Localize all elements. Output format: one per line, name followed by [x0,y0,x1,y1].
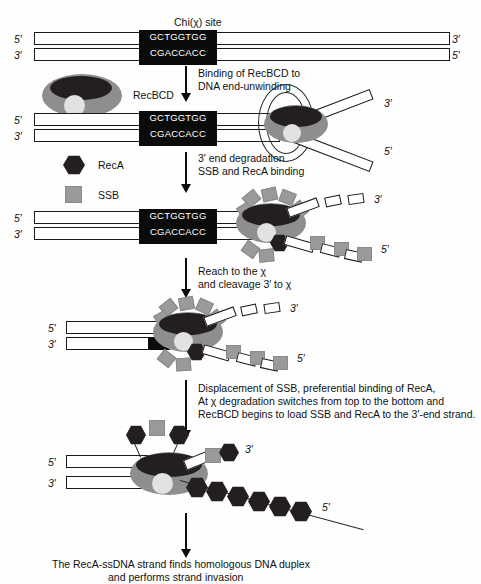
panel1-bottom-strand-right [214,48,450,61]
panel3-left-3prime: 3′ [14,228,22,241]
panel5-3prime-label: 3′ [245,443,253,456]
step-3-line-1: Reach to the χ [198,265,266,278]
panel4-5prime-ssb-3 [273,356,288,370]
panel4-top-strand [66,321,166,334]
panel3-bottom-strand-left [34,227,141,240]
panel1-top-strand-left [34,32,141,45]
panel3-degraded-fragment-2 [347,193,364,205]
panel4-left-5prime: 5′ [48,322,56,335]
step-4-line-2: At χ degradation switches from top to th… [198,395,444,408]
panel3-3prime-label: 3′ [374,193,382,206]
panel5-left-5prime: 5′ [48,456,56,469]
panel3-left-5prime: 5′ [14,212,22,225]
final-arrow-head [181,549,191,558]
panel2-3prime-label: 3′ [384,97,392,110]
panel2-left-5prime: 5′ [14,114,22,127]
panel1-right-3prime: 3′ [452,33,460,46]
panel3-degraded-fragment-1 [324,194,342,207]
panel3-chi-sequence-bottom: CGACCACC [139,225,217,244]
panel4-ssb-ring-6 [157,349,177,368]
panel4-3prime-label: 3′ [290,302,298,315]
panel3-5prime-ssb-3 [357,247,372,261]
reca-legend-label: RecA [98,159,124,172]
panel5-reca-filament-6 [290,501,312,522]
chi-site-title: Chi(χ) site [174,16,222,29]
panel5-3prime-reca [219,443,239,462]
panel4-ssb-ring-7 [176,357,192,371]
panel5-ssb-arch [149,420,165,436]
reca-legend-hexagon [63,155,85,175]
step-4-arrow-line [185,380,187,432]
panel1-bottom-strand-left [34,48,141,61]
final-arrow-line [185,513,187,551]
panel5-reca-filament-4 [248,491,270,512]
panel4-left-3prime: 3′ [48,338,56,351]
panel5-recbcd-light-dot [152,473,173,494]
panel2-5prime-label: 5′ [384,145,392,158]
step-2-arrow-head [181,184,191,193]
panel2-bottom-strand-left [34,129,141,142]
panel3-5prime-label: 5′ [381,243,389,256]
step-2-line-1: 3′ end degradation [198,152,285,165]
panel2-left-3prime: 3′ [14,130,22,143]
panel3-ssb-ring-7 [258,248,274,262]
conclusion-line-2: and performs strand invasion [108,571,243,584]
panel5-3prime-ssb [205,448,221,463]
step-1-arrow-line [185,66,187,95]
step-4-line-1: Displacement of SSB, preferential bindin… [198,382,436,395]
panel3-ssb-ring-2 [261,187,278,203]
step-3-line-2: and cleavage 3′ to χ [198,278,291,291]
figure-canvas: Chi(χ) site 5′ 3′ 3′ 5′ GCTGGTGG CGACCAC… [0,0,481,584]
panel4-degraded-fragment-1 [240,303,258,316]
conclusion-line-1: The RecA-ssDNA strand finds homologous D… [52,558,310,571]
step-1-arrow-head [181,93,191,102]
panel2-recbcd-light-dot [283,124,301,142]
panel4-5prime-label: 5′ [297,352,305,365]
step-1-line-1: Binding of RecBCD to [198,67,300,80]
panel1-top-strand-right [214,32,450,45]
panel2-recbcd-dark-cap [270,106,322,127]
panel1-right-5prime: 5′ [452,49,460,62]
panel5-reca-filament-3 [227,486,249,507]
step-4-line-3: RecBCD begins to load SSB and RecA to th… [198,408,475,421]
panel5-left-3prime: 3′ [48,477,56,490]
panel5-reca-filament-2 [206,481,228,502]
panel4-degraded-fragment-2 [263,302,280,314]
panel2-top-strand-left [34,113,141,126]
step-2-line-2: SSB and RecA binding [198,165,304,178]
panel4-bottom-strand [66,337,149,350]
ssb-legend-label: SSB [98,189,119,202]
chi-sequence-bottom: CGACCACC [139,46,217,65]
ssb-legend-square [65,186,82,203]
panel4-ssb-ring-2 [178,296,195,311]
step-2-arrow-line [185,152,187,186]
panel3-ssb-ring-6 [241,240,261,259]
panel5-reca-arch-1 [126,425,146,445]
panel1-left-5prime: 5′ [14,33,22,46]
step-3-arrow-line [185,258,187,291]
panel3-top-strand-left [34,211,141,224]
panel5-reca-filament-5 [269,496,291,517]
panel2-chi-sequence-bottom: CGACCACC [139,127,217,146]
panel5-5prime-label: 5′ [322,501,330,514]
recbcd-legend-label: RecBCD [133,89,174,102]
panel1-left-3prime: 3′ [14,49,22,62]
